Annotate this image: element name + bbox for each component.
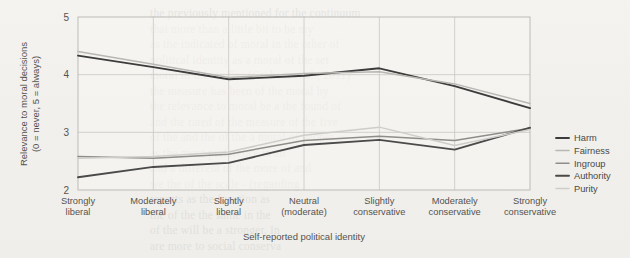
x-category-label: liberal (66, 207, 91, 217)
y-axis-title: Relevance to moral decisions (0 = never,… (18, 42, 41, 166)
x-axis-title: Self-reported political identity (243, 231, 365, 242)
x-category-label: liberal (216, 207, 241, 217)
y-axis-title-line2: (0 = never, 5 = always) (30, 56, 41, 152)
chart-svg: 5432 StronglyliberalModeratelyliberalSli… (0, 0, 630, 258)
x-category-label: Strongly (61, 196, 95, 206)
legend-label-ingroup: Ingroup (574, 159, 606, 169)
x-category-label: Slightly (214, 196, 244, 206)
legend-label-authority: Authority (574, 171, 611, 181)
y-tick-label: 5 (63, 12, 69, 23)
line-chart-figure: 5432 StronglyliberalModeratelyliberalSli… (0, 0, 630, 258)
x-category-label: conservative (504, 207, 556, 217)
y-tick-label: 2 (63, 185, 69, 196)
x-category-label: conservative (353, 207, 405, 217)
x-category-label: Slightly (364, 196, 394, 206)
y-axis-tick-labels: 5432 (63, 12, 69, 196)
legend-label-harm: Harm (574, 133, 597, 143)
legend-label-fairness: Fairness (574, 146, 610, 156)
x-category-label: Moderately (432, 196, 478, 206)
legend-label-purity: Purity (574, 184, 598, 194)
x-category-label: conservative (429, 207, 481, 217)
x-axis-category-labels: StronglyliberalModeratelyliberalSlightly… (61, 196, 556, 217)
legend: HarmFairnessIngroupAuthorityPurity (556, 133, 611, 193)
x-category-label: Neutral (289, 196, 319, 206)
x-category-label: liberal (141, 207, 166, 217)
y-tick-label: 4 (63, 69, 69, 80)
y-tick-label: 3 (63, 127, 69, 138)
x-category-label: (moderate) (281, 207, 326, 217)
y-axis-title-line1: Relevance to moral decisions (18, 42, 29, 166)
x-category-label: Moderately (130, 196, 176, 206)
x-category-label: Strongly (513, 196, 547, 206)
